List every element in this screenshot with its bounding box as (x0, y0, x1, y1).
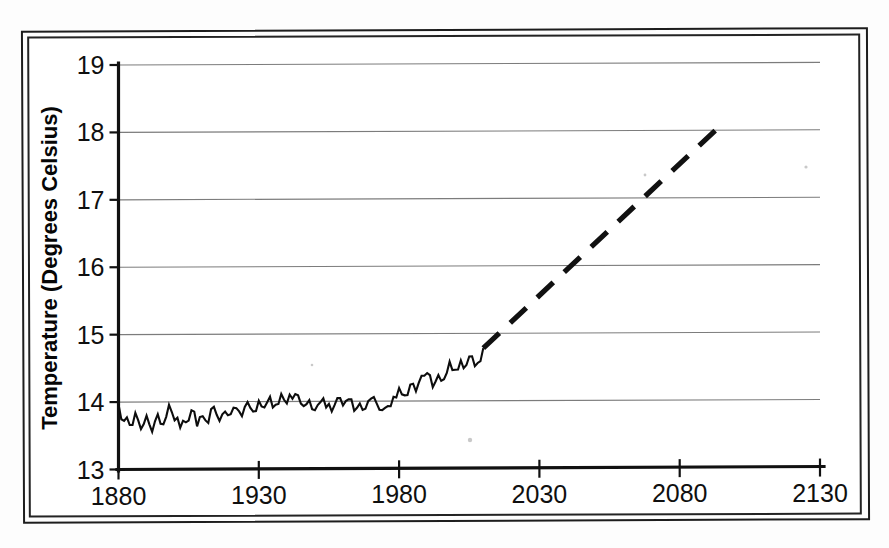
x-tick-label: 2130 (792, 479, 848, 507)
x-tick-label: 1880 (91, 482, 147, 510)
y-tick-label: 19 (77, 51, 105, 79)
scan-speck (644, 174, 647, 177)
figure-page: Temperature (Degrees Celsius) 1314151617… (0, 0, 889, 548)
grid-line-y (119, 197, 821, 200)
x-tick-label: 1980 (371, 480, 427, 508)
x-axis-line (117, 467, 824, 470)
y-tick-label: 16 (77, 253, 105, 281)
y-tick-label: 13 (77, 456, 105, 484)
scan-speck (468, 438, 472, 442)
x-tick-label: 2030 (512, 480, 568, 508)
y-axis-title: Temperature (Degrees Celsius) (37, 106, 62, 430)
grid-line-y (119, 265, 821, 268)
x-tick-label: 1930 (231, 481, 287, 509)
y-tick-label: 15 (77, 321, 105, 349)
y-tick-label: 18 (77, 118, 105, 146)
historical-temperature-line (119, 348, 484, 432)
y-tick-label: 17 (77, 186, 105, 214)
scan-speck (311, 364, 314, 367)
grid-line-y (119, 62, 821, 65)
x-tick-label: 2080 (652, 479, 708, 507)
y-tick-group: 13141516171819 (77, 51, 120, 484)
scan-speck (804, 165, 807, 168)
projected-temperature-line (483, 124, 722, 348)
temperature-line-chart: Temperature (Degrees Celsius) 1314151617… (0, 0, 889, 548)
y-tick-label: 14 (77, 388, 105, 416)
grid-line-y (119, 399, 821, 402)
gridlines-group (119, 62, 821, 402)
grid-line-y (119, 332, 821, 335)
chart-plot-wrapper: Temperature (Degrees Celsius) 1314151617… (0, 0, 889, 548)
